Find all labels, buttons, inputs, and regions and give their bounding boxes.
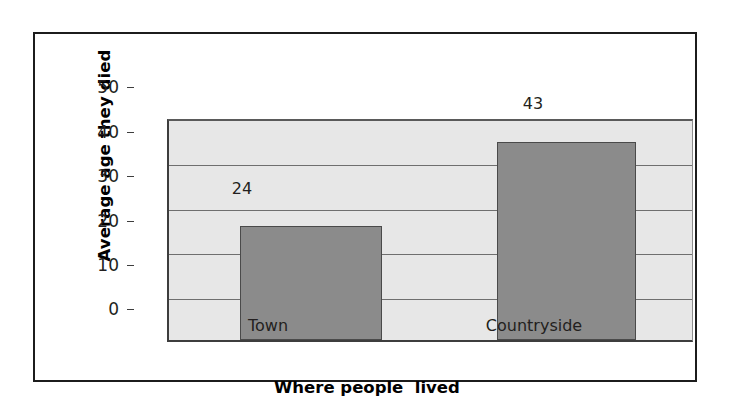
- y-tick-label-50: 50: [59, 79, 119, 96]
- y-tick-label-10: 10: [59, 257, 119, 274]
- y-tick-mark-50: [127, 87, 134, 88]
- x-axis-title: Where people lived: [35, 378, 699, 397]
- y-tick-label-40: 40: [59, 124, 119, 141]
- y-tick-mark-10: [127, 265, 134, 266]
- bar-chart-figure: Average age they died 50 40 30 20 10 0 2…: [0, 0, 731, 412]
- y-tick-mark-40: [127, 132, 134, 133]
- plot-area: [167, 119, 693, 342]
- y-tick-label-0: 0: [59, 301, 119, 318]
- y-tick-mark-30: [127, 176, 134, 177]
- chart-outer-border: Average age they died 50 40 30 20 10 0 2…: [33, 32, 697, 382]
- y-tick-mark-20: [127, 221, 134, 222]
- category-label-town: Town: [213, 318, 323, 334]
- bar-countryside[interactable]: [497, 142, 636, 340]
- bar-value-label-countryside: 43: [498, 96, 568, 112]
- y-axis-title: Average age they died: [95, 41, 114, 271]
- y-tick-label-30: 30: [59, 168, 119, 185]
- bar-value-label-town: 24: [207, 181, 277, 197]
- y-tick-mark-0: [127, 309, 134, 310]
- y-tick-label-20: 20: [59, 213, 119, 230]
- category-label-countryside: Countryside: [459, 318, 609, 334]
